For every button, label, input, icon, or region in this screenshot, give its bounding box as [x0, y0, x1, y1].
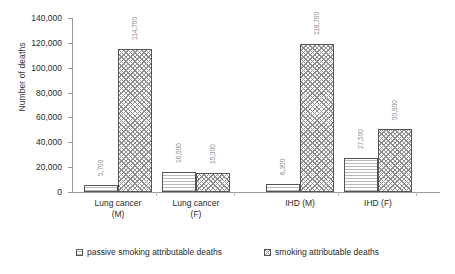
bar-smoking — [378, 129, 412, 192]
y-axis-tick-label: 60,000 — [2, 112, 62, 122]
bar-value-label: 15,300 — [209, 144, 216, 164]
bar-passive — [84, 185, 118, 192]
bar-value-label: 6,300 — [279, 159, 286, 175]
x-axis-line — [72, 192, 440, 193]
y-axis-tick-mark — [68, 117, 72, 118]
bar-value-label: 16,500 — [175, 143, 182, 163]
y-axis-line — [72, 18, 73, 192]
legend-item[interactable]: passive smoking attributable deaths — [76, 247, 222, 257]
bar-smoking — [196, 173, 230, 192]
y-axis-tick-mark — [68, 93, 72, 94]
bar-passive — [162, 172, 196, 193]
bar-value-label: 118,700 — [313, 12, 320, 35]
y-axis-tick-label: 80,000 — [2, 88, 62, 98]
x-axis-tick-mark — [338, 192, 339, 196]
bar-chart: Number of deaths 020,00040,00060,00080,0… — [0, 0, 455, 274]
bar-value-label: 27,500 — [357, 129, 364, 149]
y-axis-tick-label: 120,000 — [2, 38, 62, 48]
y-axis-tick-mark — [68, 142, 72, 143]
bar-group: 27,50050,900 — [344, 18, 412, 192]
x-axis-category-label: IHD (M) — [255, 198, 345, 209]
bar-group: 5,700114,700 — [84, 18, 152, 192]
x-axis-tick-mark — [156, 192, 157, 196]
bar-group: 6,300118,700 — [266, 18, 334, 192]
bar-value-label: 114,700 — [131, 17, 138, 40]
plot-area: 020,00040,00060,00080,000100,000120,0001… — [72, 18, 440, 192]
bar-smoking — [118, 49, 152, 192]
bar-passive — [344, 158, 378, 192]
x-axis-tick-mark — [234, 192, 235, 196]
y-axis-tick-mark — [68, 192, 72, 193]
y-axis-tick-mark — [68, 43, 72, 44]
legend-swatch-passive — [76, 249, 83, 256]
x-axis-category-label: Lung cancer (M) — [73, 198, 163, 220]
bar-value-label: 50,900 — [391, 100, 398, 120]
x-axis-category-label: IHD (F) — [333, 198, 423, 209]
chart-legend: passive smoking attributable deathssmoki… — [0, 247, 455, 257]
y-axis-tick-mark — [68, 167, 72, 168]
y-axis-tick-label: 20,000 — [2, 162, 62, 172]
y-axis-tick-mark — [68, 18, 72, 19]
y-axis-tick-label: 40,000 — [2, 137, 62, 147]
bar-value-label: 5,700 — [97, 160, 104, 176]
y-axis-tick-label: 100,000 — [2, 63, 62, 73]
legend-label: smoking attributable deaths — [275, 247, 379, 257]
y-axis-tick-mark — [68, 68, 72, 69]
legend-swatch-smoking — [264, 249, 271, 256]
y-axis-tick-label: 140,000 — [2, 13, 62, 23]
bar-smoking — [300, 44, 334, 192]
x-axis-tick-mark — [416, 192, 417, 196]
bar-passive — [266, 184, 300, 192]
y-axis-tick-label: 0 — [2, 187, 62, 197]
x-axis-category-label: Lung cancer (F) — [151, 198, 241, 220]
bar-group: 16,50015,300 — [162, 18, 230, 192]
legend-label: passive smoking attributable deaths — [87, 247, 222, 257]
legend-item[interactable]: smoking attributable deaths — [264, 247, 379, 257]
y-axis-title: Number of deaths — [17, 7, 27, 147]
